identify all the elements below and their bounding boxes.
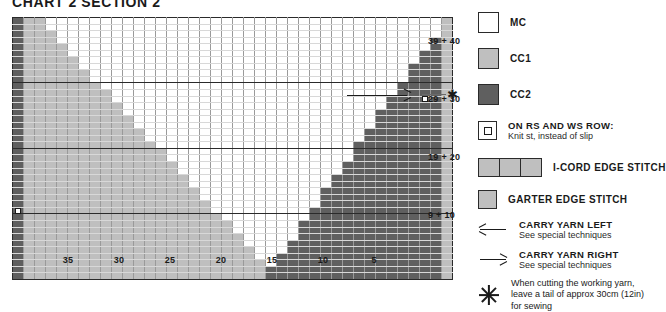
asterisk-icon [478, 284, 500, 306]
knit-st-marker-left [15, 208, 21, 214]
chart-cell [68, 273, 79, 280]
chart-cell [13, 273, 24, 280]
column-label: 10 [318, 255, 329, 265]
chart-cell [101, 273, 112, 280]
swatch-mc [478, 12, 499, 33]
legend-label: MC [510, 17, 526, 28]
row-label: 39 + 40 [428, 36, 460, 46]
legend-item-cut-yarn-note: When cutting the working yarn,leave a ta… [478, 278, 644, 312]
legend-item-i-cord-edge: I-CORD EDGE STITCH [478, 158, 666, 177]
legend-label: CC1 [510, 53, 531, 64]
legend-title: ON RS AND WS ROW: [508, 120, 614, 131]
chart-cell [332, 273, 343, 280]
legend-note-line: leave a tail of approx 30cm (12in) [511, 289, 644, 300]
chart-cell [178, 273, 189, 280]
carry-yarn-right-arrow-overlay [347, 91, 415, 101]
chart-cell [354, 273, 365, 280]
legend-note-line: When cutting the working yarn, [511, 278, 644, 289]
chart-cell [277, 273, 288, 280]
chart-cell [123, 273, 134, 280]
arrow-shaft [347, 95, 407, 96]
arrow-head [403, 91, 411, 100]
chart-cell [398, 273, 409, 280]
chart-cell [189, 273, 200, 280]
chart-cell [365, 273, 376, 280]
legend-item-cc1: CC1 [478, 48, 531, 69]
chart-cell [420, 273, 431, 280]
chart-cell [387, 273, 398, 280]
knitting-chart: ✱ 39 + 4029 + 3019 + 209 + 10 3530252015… [0, 0, 460, 284]
arrow-right-icon [478, 254, 508, 266]
i-cord-cell [500, 159, 521, 176]
chart-cell [255, 273, 266, 280]
legend-note-line: for sewing [511, 301, 644, 312]
row-label: 19 + 20 [428, 152, 460, 162]
i-cord-cell [521, 159, 541, 176]
chart-cell [145, 273, 156, 280]
chart-cell [343, 273, 354, 280]
legend-item-carry-yarn-left: CARRY YARN LEFTSee special techniques [478, 219, 612, 241]
chart-cell [112, 273, 123, 280]
i-cord-cell [479, 159, 500, 176]
chart-cell [310, 273, 321, 280]
swatch-cc1 [478, 190, 497, 209]
legend-subtitle: See special techniques [519, 260, 619, 271]
column-label: 25 [165, 255, 176, 265]
chart-row [13, 273, 453, 280]
column-label: 5 [371, 255, 376, 265]
legend-label: I-CORD EDGE STITCH [553, 162, 666, 173]
row-label: 9 + 10 [428, 210, 455, 220]
chart-cell [321, 273, 332, 280]
column-label: 20 [216, 255, 227, 265]
chart-cell [376, 273, 387, 280]
chart-legend: MCCC1CC2ON RS AND WS ROW:Knit st, instea… [478, 8, 659, 284]
legend-item-cc2: CC2 [478, 84, 531, 105]
row-label: 29 + 30 [428, 94, 460, 104]
arrow-left-icon [478, 224, 508, 236]
legend-title: CARRY YARN RIGHT [519, 249, 619, 260]
chart-cell [79, 273, 90, 280]
chart-cell [24, 273, 35, 280]
column-label: 30 [114, 255, 125, 265]
i-cord-swatch [478, 158, 542, 177]
legend-item-mc: MC [478, 12, 526, 33]
legend-subtitle: Knit st, instead of slip [508, 131, 614, 142]
legend-text-block: When cutting the working yarn,leave a ta… [511, 278, 644, 312]
chart-cell [442, 273, 453, 280]
legend-text-block: CARRY YARN RIGHTSee special techniques [519, 249, 619, 271]
column-label: 35 [63, 255, 74, 265]
swatch-cc1 [478, 48, 499, 69]
legend-item-carry-yarn-right: CARRY YARN RIGHTSee special techniques [478, 249, 619, 271]
legend-text-block: CARRY YARN LEFTSee special techniques [519, 219, 612, 241]
chart-cell [222, 273, 233, 280]
legend-label: CC2 [510, 89, 531, 100]
chart-cell [35, 273, 46, 280]
swatch-cc2 [478, 84, 499, 105]
arrow-head [499, 255, 507, 265]
chart-cell [233, 273, 244, 280]
chart-grid [12, 17, 453, 280]
legend-label: GARTER EDGE STITCH [508, 194, 627, 205]
legend-item-knit-st-marker: ON RS AND WS ROW:Knit st, instead of sli… [478, 120, 614, 142]
chart-cell [409, 273, 420, 280]
column-label: 15 [267, 255, 278, 265]
chart-cell [299, 273, 310, 280]
chart-cell [266, 273, 277, 280]
chart-cell [167, 273, 178, 280]
legend-item-garter-edge: GARTER EDGE STITCH [478, 190, 627, 209]
chart-cell [431, 273, 442, 280]
chart-cell [156, 273, 167, 280]
knit-st-marker-icon [478, 121, 497, 140]
chart-cell [134, 273, 145, 280]
chart-cell [244, 273, 255, 280]
chart-cell [57, 273, 68, 280]
chart-cell [46, 273, 57, 280]
chart-cell [288, 273, 299, 280]
legend-subtitle: See special techniques [519, 230, 612, 241]
chart-cell [200, 273, 211, 280]
arrow-head [479, 225, 487, 235]
legend-title: CARRY YARN LEFT [519, 219, 612, 230]
legend-text-block: ON RS AND WS ROW:Knit st, instead of sli… [508, 120, 614, 142]
chart-cell [211, 273, 222, 280]
chart-grid-wrapper [12, 17, 453, 280]
